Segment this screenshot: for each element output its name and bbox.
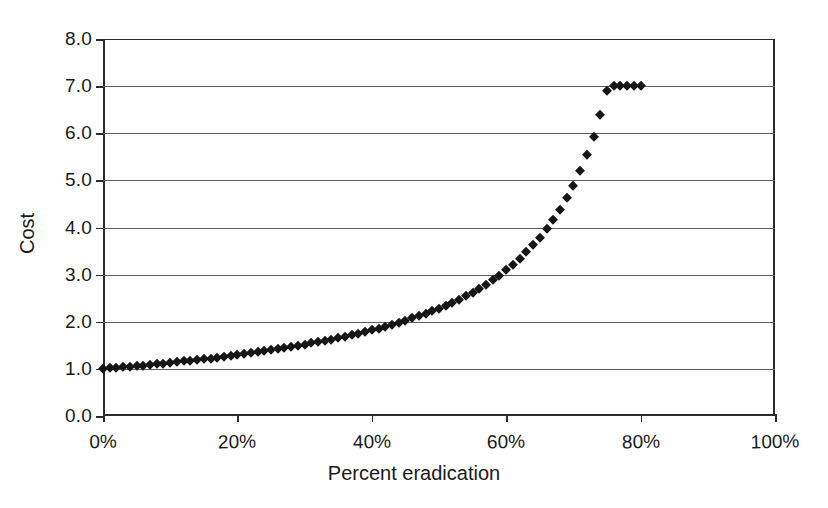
x-axis-tick (506, 414, 508, 422)
y-axis-tick-label: 7.0 (65, 75, 92, 97)
data-point (595, 110, 605, 120)
y-axis-tick-label: 2.0 (65, 311, 92, 333)
data-point (541, 224, 551, 234)
data-point (575, 166, 585, 176)
gridline (103, 275, 775, 276)
x-axis-tick-label: 0% (89, 431, 117, 454)
y-axis-tick (96, 275, 103, 277)
y-axis-tick-label: 8.0 (65, 28, 92, 50)
y-axis-tick (96, 86, 103, 88)
data-point (568, 180, 578, 190)
plot-frame-top (103, 39, 775, 40)
x-axis-tick-label: 60% (487, 431, 525, 454)
chart-figure: Cost 0.01.02.03.04.05.06.07.08.0 0%20%40… (0, 0, 828, 508)
y-axis-tick-label: 4.0 (65, 217, 92, 239)
gridline (103, 228, 775, 229)
x-axis-tick (103, 414, 105, 422)
gridline (103, 86, 775, 87)
x-axis-tick-label: 40% (353, 431, 391, 454)
data-point (561, 193, 571, 203)
x-axis-line (103, 414, 775, 416)
x-axis-title: Percent eradication (0, 462, 828, 485)
y-axis-tick (96, 133, 103, 135)
data-point (535, 233, 545, 243)
y-axis-tick-label: 1.0 (65, 358, 92, 380)
x-axis-tick-label: 100% (750, 430, 799, 453)
data-point (555, 204, 565, 214)
x-axis-tick-label: 80% (621, 431, 659, 454)
x-axis-tick (372, 414, 374, 422)
y-axis-tick (96, 322, 103, 324)
x-axis-tick (237, 414, 239, 422)
x-axis-tick (641, 414, 643, 422)
y-axis-tick-label: 5.0 (65, 169, 92, 191)
y-axis-tick-label: 0.0 (65, 405, 92, 427)
data-point (582, 150, 592, 160)
x-axis-tick (775, 414, 777, 422)
y-axis-tick (96, 39, 103, 41)
gridline (103, 322, 775, 323)
x-axis-tick-label: 20% (218, 431, 256, 454)
y-axis-tick-label: 6.0 (65, 122, 92, 144)
plot-area: 0.01.02.03.04.05.06.07.08.0 0%20%40%60%8… (103, 39, 775, 416)
gridline (103, 180, 775, 181)
data-point (548, 215, 558, 225)
gridline (103, 369, 775, 370)
data-point (635, 81, 645, 91)
y-axis-tick (96, 416, 103, 418)
y-axis-tick-label: 3.0 (65, 264, 92, 286)
y-axis-tick (96, 180, 103, 182)
data-point (528, 240, 538, 250)
gridline (103, 133, 775, 134)
y-axis-title: Cost (16, 213, 39, 254)
y-axis-tick (96, 228, 103, 230)
